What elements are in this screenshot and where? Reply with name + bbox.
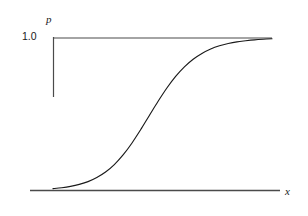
sigmoid-chart-figure: p 1.0 x <box>0 0 308 216</box>
logistic-curve <box>53 39 272 189</box>
x-axis-label: x <box>285 186 290 197</box>
y-axis-label: p <box>46 14 52 25</box>
y-axis-tick-label-1: 1.0 <box>22 31 37 42</box>
plot-area <box>0 0 308 216</box>
